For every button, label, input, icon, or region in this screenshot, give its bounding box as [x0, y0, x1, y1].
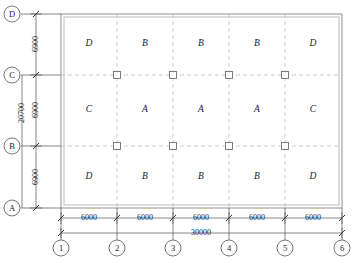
grid-bubble-label-1: 1: [59, 244, 63, 253]
left-grid-leaders: [21, 14, 61, 208]
panel-label: C: [310, 105, 316, 115]
horizontal-dimension-overall: 30000: [191, 229, 211, 237]
grid-bubble-label-6: 6: [340, 244, 344, 253]
column-marker-3C: [170, 72, 177, 79]
grid-bubble-label-4: 4: [227, 244, 231, 253]
grid-bubble-label-2: 2: [115, 244, 119, 253]
column-marker-4C: [226, 72, 233, 79]
panel-label: D: [310, 172, 317, 182]
horizontal-dimension-1-2: 6000: [81, 214, 97, 222]
panel-label: D: [86, 39, 93, 49]
panel-label: B: [142, 172, 148, 182]
grid-bubble-label-5: 5: [283, 244, 287, 253]
grid-bubble-label-B: B: [9, 142, 15, 151]
vertical-dimension-B-A: 6900: [32, 169, 40, 185]
column-marker-5C: [282, 72, 289, 79]
horizontal-dimension-4-5: 6000: [249, 214, 265, 222]
grid-bubble-label-A: A: [9, 204, 15, 213]
panel-label: B: [198, 39, 204, 49]
horizontal-dimension-5-6: 6000: [305, 214, 321, 222]
vertical-dimension-C-B: 6900: [32, 102, 40, 118]
panel-label: B: [142, 39, 148, 49]
panel-label: C: [86, 105, 92, 115]
framing-plan-drawing: D C B A 1 2 3 4 5 6 6900 6900 6900 20700…: [0, 0, 364, 272]
panel-label: B: [254, 172, 260, 182]
panel-label: B: [254, 39, 260, 49]
panel-label: B: [198, 172, 204, 182]
horizontal-dimension-2-3: 6000: [137, 214, 153, 222]
column-marker-2C: [114, 72, 121, 79]
column-marker-4B: [226, 143, 233, 150]
column-marker-3B: [170, 143, 177, 150]
grid-bubbles-bottom: [53, 240, 350, 256]
grid-bubble-label-C: C: [9, 71, 15, 80]
grid-bubble-label-D: D: [9, 10, 15, 19]
grid-bubble-label-3: 3: [171, 244, 175, 253]
panel-label: A: [142, 105, 148, 115]
panel-label: D: [310, 39, 317, 49]
vertical-dimension-D-C: 6900: [32, 36, 40, 52]
vertical-dimension-overall: 20700: [18, 103, 26, 123]
panel-label: A: [198, 105, 204, 115]
panel-label: A: [254, 105, 260, 115]
panel-label: D: [86, 172, 93, 182]
column-marker-2B: [114, 143, 121, 150]
column-marker-5B: [282, 143, 289, 150]
horizontal-dimension-3-4: 6000: [193, 214, 209, 222]
